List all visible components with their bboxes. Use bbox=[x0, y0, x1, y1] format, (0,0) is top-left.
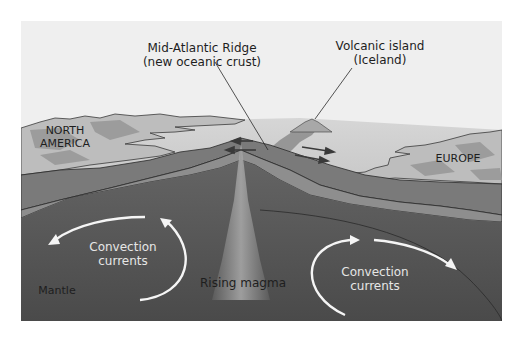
europe-label: EUROPE bbox=[436, 152, 481, 165]
ridge-label-line2: (new oceanic crust) bbox=[143, 55, 261, 69]
north-america-label-line2: AMERICA bbox=[40, 137, 91, 150]
island-label-line2: (Iceland) bbox=[354, 53, 407, 67]
north-america-label-line1: NORTH bbox=[46, 124, 85, 137]
ridge-label-line1: Mid-Atlantic Ridge bbox=[147, 41, 256, 55]
island-label-line1: Volcanic island bbox=[336, 39, 425, 53]
mantle-label: Mantle bbox=[38, 284, 76, 297]
convection-right-label-line1: Convection bbox=[341, 265, 408, 279]
convection-right-label-line2: currents bbox=[350, 279, 400, 293]
convection-left-label-line2: currents bbox=[98, 254, 148, 268]
rising-magma-label: Rising magma bbox=[200, 276, 286, 290]
convection-left-label-line1: Convection bbox=[89, 240, 156, 254]
ridge-diagram: Mid-Atlantic Ridge (new oceanic crust) V… bbox=[0, 0, 525, 339]
